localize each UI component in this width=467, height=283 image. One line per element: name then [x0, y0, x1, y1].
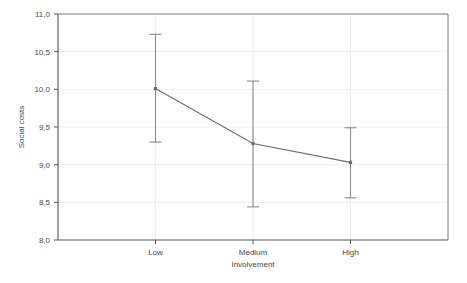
x-category-label-medium: Medium — [239, 248, 268, 257]
data-point-high — [349, 161, 352, 164]
y-tick-label-3: 9,5 — [39, 123, 51, 132]
data-point-low — [154, 87, 157, 90]
chart-container: 8,08,59,09,510,010,511,0 LowMediumHigh I… — [0, 0, 467, 283]
y-axis-title: Social costs — [17, 106, 26, 149]
y-tick-label-1: 8,5 — [39, 198, 51, 207]
social-costs-line-chart: 8,08,59,09,510,010,511,0 LowMediumHigh I… — [0, 0, 467, 283]
data-point-medium — [251, 142, 254, 145]
y-tick-label-5: 10,5 — [34, 48, 50, 57]
x-category-label-low: Low — [148, 248, 163, 257]
y-tick-label-2: 9,0 — [39, 161, 51, 170]
y-tick-label-4: 10,0 — [34, 85, 50, 94]
x-axis-title: Involvement — [231, 260, 275, 269]
y-tick-label-6: 11,0 — [35, 10, 51, 19]
x-category-label-high: High — [342, 248, 358, 257]
y-tick-label-0: 8,0 — [39, 236, 51, 245]
